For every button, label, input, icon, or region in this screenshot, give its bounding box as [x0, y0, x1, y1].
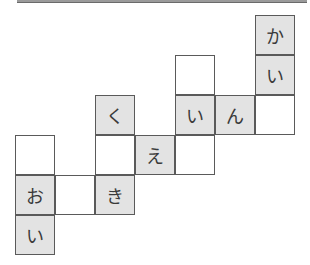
grid-cell-filled: か: [255, 15, 295, 55]
cell-character: き: [106, 182, 124, 208]
grid-cell-empty[interactable]: [175, 135, 215, 175]
grid-cell-filled: く: [95, 95, 135, 135]
cell-character: い: [186, 102, 204, 128]
grid-cell-empty[interactable]: [15, 135, 55, 175]
grid-cell-filled: え: [135, 135, 175, 175]
crossword-grid: かいくいんえおきい: [15, 15, 295, 255]
cell-character: お: [26, 182, 44, 208]
grid-cell-filled: き: [95, 175, 135, 215]
grid-cell-empty[interactable]: [175, 55, 215, 95]
grid-cell-filled: ん: [215, 95, 255, 135]
cell-character: い: [266, 62, 284, 88]
grid-cell-empty[interactable]: [55, 175, 95, 215]
cell-character: い: [26, 222, 44, 248]
grid-cell-empty[interactable]: [255, 95, 295, 135]
grid-cell-empty[interactable]: [95, 135, 135, 175]
cell-character: か: [266, 22, 284, 48]
grid-cell-filled: い: [255, 55, 295, 95]
top-divider: [17, 0, 307, 3]
grid-cell-filled: い: [175, 95, 215, 135]
cell-character: く: [106, 102, 124, 128]
cell-character: え: [146, 142, 164, 168]
cell-character: ん: [226, 102, 244, 128]
grid-cell-filled: い: [15, 215, 55, 255]
grid-cell-filled: お: [15, 175, 55, 215]
